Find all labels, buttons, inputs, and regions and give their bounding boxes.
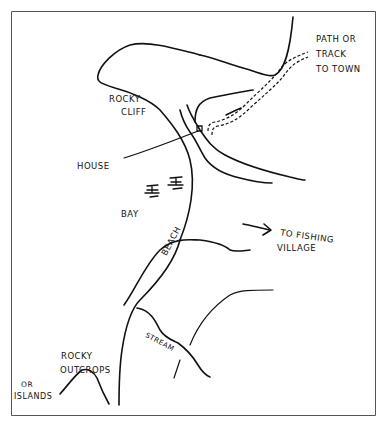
upper-land-edge — [200, 17, 293, 76]
label-house: HOUSE — [77, 162, 110, 171]
label-fishing-line2: VILLAGE — [277, 244, 316, 253]
contour-lower — [190, 290, 273, 345]
contour-upper — [124, 240, 250, 305]
beach-coastline — [119, 240, 180, 405]
label-outcrops-line1: ROCKY — [61, 352, 93, 361]
path-track-lower — [212, 57, 308, 135]
label-rocky-cliff-line1: ROCKY — [109, 95, 141, 104]
label-islands-line2: ISLANDS — [14, 393, 52, 401]
stream-lower-bank — [174, 360, 180, 378]
stream-lower — [137, 308, 210, 377]
label-bay: BAY — [121, 210, 139, 219]
label-path-line3: TO TOWN — [316, 65, 361, 74]
boat-icon-2 — [168, 177, 183, 189]
stream-upper-right — [187, 105, 305, 180]
label-rocky-cliff-line2: CLIFF — [121, 108, 146, 117]
label-path-line1: PATH OR — [316, 35, 356, 44]
sketch-map: PATH OR TRACK TO TOWN ROCKY CLIFF HOUSE … — [0, 0, 387, 427]
label-path-line2: TRACK — [316, 50, 346, 59]
headland-outline — [98, 44, 200, 240]
valley-line-small — [226, 108, 241, 115]
boat-icon-1 — [145, 185, 159, 197]
boats — [145, 177, 183, 197]
house-leader-line — [124, 131, 198, 158]
label-outcrops-line2: OUTCROPS — [60, 366, 111, 375]
label-islands-line1: OR — [21, 381, 33, 389]
path-track-upper — [208, 52, 308, 131]
